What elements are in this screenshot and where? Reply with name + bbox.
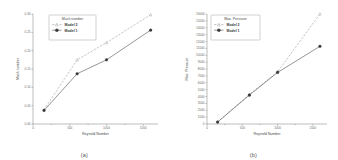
y-tick-label: 0.10: [25, 85, 31, 89]
y-tick-label: 0.15: [25, 67, 31, 71]
data-point: [105, 41, 108, 43]
y-tick-label: 0.20: [25, 49, 31, 53]
y-axis-title: Max. Pressure: [185, 57, 189, 80]
data-point: [76, 72, 79, 75]
chart-a-svg: 0.000.050.100.150.200.250.30050010001500…: [0, 0, 169, 146]
x-tick-label: 500: [240, 126, 245, 130]
legend-label: Model 2: [65, 23, 78, 27]
y-tick-label: 0.00: [25, 122, 31, 126]
legend-label: Model 1: [227, 29, 240, 33]
y-tick-label: 12000: [196, 40, 205, 44]
legend-label: Model 1: [65, 29, 78, 33]
data-point: [149, 29, 152, 32]
series-line-model-1: [218, 46, 320, 122]
panel-a-caption: (a): [0, 152, 169, 158]
y-tick-label: 0.05: [25, 104, 31, 108]
data-point: [105, 58, 108, 61]
legend-marker: [217, 29, 220, 32]
y-tick-label: 14000: [196, 26, 205, 30]
x-tick-label: 1000: [274, 126, 281, 130]
data-point: [43, 109, 46, 112]
x-tick-label: 0: [32, 126, 34, 130]
y-tick-label: 0.30: [25, 12, 31, 16]
data-point: [276, 71, 279, 74]
x-tick-label: 1500: [140, 126, 147, 130]
data-point: [319, 13, 322, 15]
series-line-model-1: [44, 30, 151, 110]
y-tick-label: 3000: [198, 101, 205, 105]
x-tick-label: 1000: [103, 126, 110, 130]
data-point: [248, 94, 251, 97]
chart-panel-a: 0.000.050.100.150.200.250.30050010001500…: [0, 0, 169, 160]
data-point: [319, 45, 322, 48]
x-axis-title: Reynold Number: [82, 132, 110, 136]
plot-area-a: 0.000.050.100.150.200.250.30050010001500…: [0, 0, 169, 146]
y-tick-label: 13000: [196, 33, 205, 37]
y-tick-label: 16000: [196, 12, 205, 16]
x-tick-label: 0: [206, 126, 208, 130]
y-tick-label: 11000: [196, 46, 205, 50]
chart-panel-b: 0100020003000400050006000700080009000100…: [169, 0, 338, 160]
y-tick-label: 8000: [198, 67, 205, 71]
y-tick-label: 1000: [198, 115, 205, 119]
y-axis-title: Mach number: [16, 57, 20, 80]
chart-b-svg: 0100020003000400050006000700080009000100…: [169, 0, 338, 146]
data-point: [216, 121, 219, 124]
data-point: [149, 13, 152, 15]
y-tick-label: 10000: [196, 53, 205, 57]
x-axis-title: Reynold Number: [254, 132, 282, 136]
y-tick-label: 0: [203, 122, 205, 126]
y-tick-label: 15000: [196, 19, 205, 23]
data-point: [76, 59, 79, 61]
x-tick-label: 500: [67, 126, 72, 130]
y-tick-label: 4000: [198, 95, 205, 99]
legend-marker: [55, 29, 58, 32]
y-tick-label: 9000: [198, 60, 205, 64]
y-tick-label: 0.25: [25, 30, 31, 34]
y-tick-label: 2000: [198, 108, 205, 112]
x-tick-label: 1500: [309, 126, 316, 130]
plot-area-b: 0100020003000400050006000700080009000100…: [169, 0, 338, 146]
legend-label: Model 2: [227, 23, 240, 27]
y-tick-label: 7000: [198, 74, 205, 78]
figure-container: 0.000.050.100.150.200.250.30050010001500…: [0, 0, 338, 160]
y-tick-label: 6000: [198, 81, 205, 85]
y-tick-label: 5000: [198, 88, 205, 92]
legend-title: Mach number: [62, 17, 84, 21]
panel-b-caption: (b): [169, 152, 338, 158]
legend-title: Max. Pressure: [224, 17, 247, 21]
